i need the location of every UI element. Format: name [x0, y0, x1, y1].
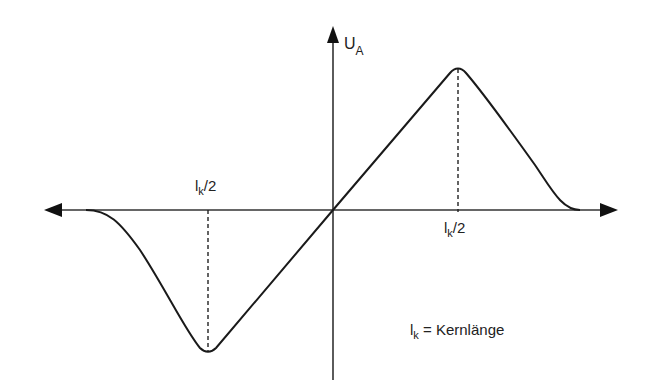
- y-axis-arrow-icon: [327, 26, 339, 43]
- pos-half-label-suffix: /2: [453, 219, 466, 236]
- diagram-canvas: [0, 0, 646, 389]
- y-axis-label-sub: A: [356, 44, 364, 58]
- y-axis-label-main: U: [344, 35, 356, 52]
- y-axis-label: UA: [344, 36, 364, 57]
- legend-suffix: = Kernlänge: [419, 321, 504, 338]
- x-axis-right-arrow-icon: [600, 203, 618, 217]
- x-axis-left-arrow-icon: [44, 203, 62, 217]
- legend-text: lk = Kernlänge: [410, 322, 504, 341]
- neg-half-label: lk/2: [195, 178, 216, 197]
- neg-half-label-suffix: /2: [204, 177, 217, 194]
- pos-half-label: lk/2: [444, 220, 465, 239]
